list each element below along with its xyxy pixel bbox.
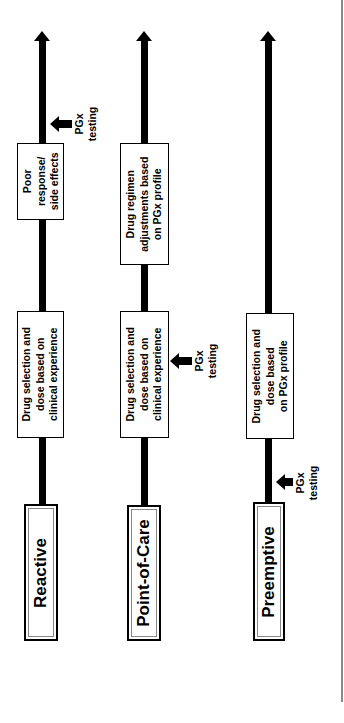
step-text-line: response/: [34, 153, 48, 211]
pgx-testing-arrow-icon: [276, 474, 293, 490]
pgx-testing-label: PGx testing: [73, 104, 99, 144]
step-text-line: Poor: [20, 153, 34, 211]
pgx-testing-label: PGx testing: [193, 340, 219, 382]
step-drug-selection-clinical-box: Drug selection and dose based on clinica…: [17, 311, 64, 438]
step-text-line: clinical experience: [47, 327, 61, 422]
pgx-testing-arrow-icon: [50, 116, 72, 132]
step-text-line: dose based on: [138, 327, 152, 422]
approach-label-reactive: Reactive: [24, 504, 58, 641]
page-right-rule: [341, 0, 343, 702]
step-text-line: side effects: [47, 153, 61, 211]
step-text-line: Drug selection and: [250, 329, 264, 424]
step-poor-response-box: Poor response/ side effects: [17, 143, 64, 220]
step-regimen-adjustments-box: Drug regimen adjustments based on PGx pr…: [120, 143, 169, 265]
step-text-line: Drug selection and: [124, 327, 138, 422]
step-text-line: Drug selection and: [20, 327, 34, 422]
step-drug-selection-clinical-box: Drug selection and dose based on clinica…: [120, 311, 169, 438]
timeline-arrowhead-icon: [260, 31, 276, 41]
step-drug-selection-pgx-box: Drug selection and dose based on PGx pro…: [246, 313, 294, 439]
step-text-line: dose based: [263, 329, 277, 424]
pgx-testing-arrow-icon: [170, 353, 192, 369]
step-text-line: on PGx profile: [151, 156, 165, 251]
approach-label-point-of-care: Point-of-Care: [127, 505, 161, 641]
step-text-line: adjustments based: [138, 156, 152, 251]
step-text-line: Drug regimen: [124, 156, 138, 251]
step-text-line: clinical experience: [151, 327, 165, 422]
step-text-line: on PGx profile: [277, 329, 291, 424]
timeline-arrowhead-icon: [136, 31, 152, 41]
approach-label-preemptive: Preemptive: [253, 502, 285, 641]
step-text-line: dose based on: [34, 327, 48, 422]
pgx-testing-label: PGx testing: [295, 462, 319, 504]
timeline-arrowhead-icon: [34, 31, 50, 41]
